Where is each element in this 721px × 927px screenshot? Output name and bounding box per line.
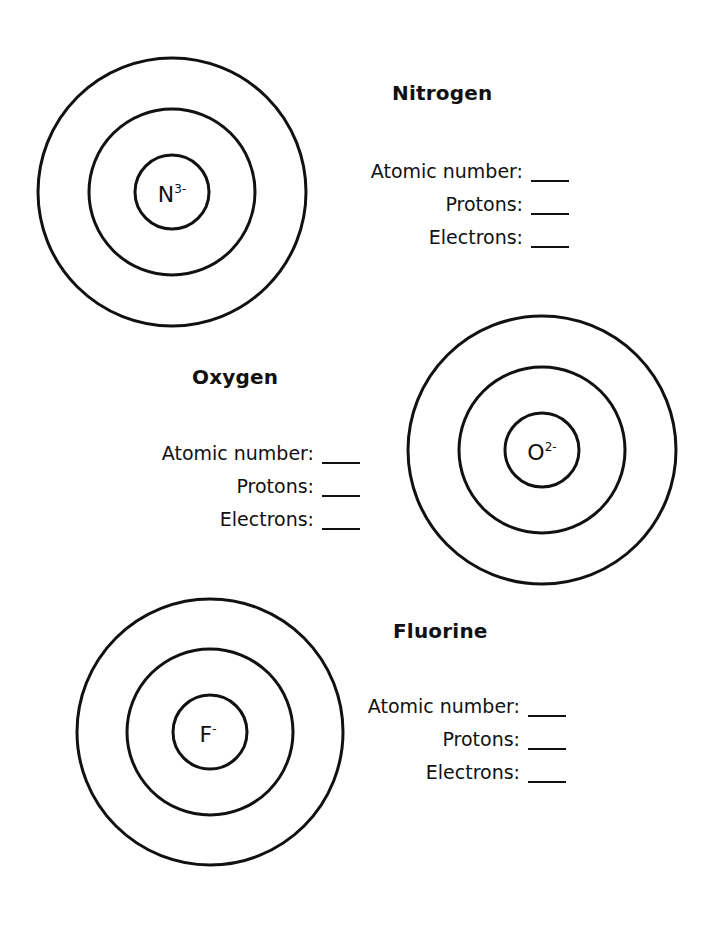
- protons-label: Protons:: [442, 728, 520, 750]
- protons-label: Protons:: [445, 193, 523, 215]
- element-title-fluorine: Fluorine: [393, 619, 488, 643]
- ion-charge: 2-: [545, 440, 557, 454]
- electrons-blank[interactable]: [528, 761, 566, 783]
- electrons-row: Electrons:: [368, 756, 566, 789]
- atomic-number-blank[interactable]: [322, 442, 360, 464]
- element-symbol: N: [158, 182, 174, 207]
- atomic-number-row: Atomic number:: [368, 690, 566, 723]
- protons-row: Protons:: [371, 188, 569, 221]
- nucleus-symbol: F-: [200, 723, 217, 746]
- element-title-oxygen: Oxygen: [192, 365, 278, 389]
- protons-row: Protons:: [162, 470, 360, 503]
- oxygen-bohr-diagram: O2-: [406, 314, 678, 586]
- electrons-blank[interactable]: [531, 226, 569, 248]
- atomic-number-blank[interactable]: [528, 695, 566, 717]
- electrons-label: Electrons:: [429, 226, 523, 248]
- protons-row: Protons:: [368, 723, 566, 756]
- atomic-number-row: Atomic number:: [162, 437, 360, 470]
- atomic-number-row: Atomic number:: [371, 155, 569, 188]
- electrons-label: Electrons:: [426, 761, 520, 783]
- atomic-number-label: Atomic number:: [371, 160, 523, 182]
- oxygen-fields: Atomic number: Protons: Electrons:: [162, 437, 360, 536]
- atomic-number-blank[interactable]: [531, 160, 569, 182]
- nucleus-symbol: N3-: [158, 183, 186, 206]
- ion-charge: -: [212, 722, 216, 736]
- element-symbol: F: [200, 722, 213, 747]
- ion-charge: 3-: [174, 182, 186, 196]
- element-symbol: O: [527, 440, 544, 465]
- nitrogen-fields: Atomic number: Protons: Electrons:: [371, 155, 569, 254]
- fluorine-fields: Atomic number: Protons: Electrons:: [368, 690, 566, 789]
- electrons-label: Electrons:: [220, 508, 314, 530]
- atomic-number-label: Atomic number:: [162, 442, 314, 464]
- electrons-row: Electrons:: [371, 221, 569, 254]
- fluorine-bohr-diagram: F-: [74, 596, 346, 868]
- electrons-row: Electrons:: [162, 503, 360, 536]
- protons-blank[interactable]: [322, 475, 360, 497]
- protons-label: Protons:: [236, 475, 314, 497]
- atomic-number-label: Atomic number:: [368, 695, 520, 717]
- nucleus-symbol: O2-: [527, 441, 556, 464]
- protons-blank[interactable]: [528, 728, 566, 750]
- nitrogen-bohr-diagram: N3-: [36, 56, 308, 328]
- electrons-blank[interactable]: [322, 508, 360, 530]
- protons-blank[interactable]: [531, 193, 569, 215]
- element-title-nitrogen: Nitrogen: [392, 81, 492, 105]
